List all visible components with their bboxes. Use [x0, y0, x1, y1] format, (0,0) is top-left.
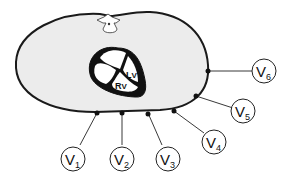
rv-label: RV: [115, 81, 128, 91]
lead-v1: V1: [61, 147, 85, 171]
electrode-v4: [172, 109, 177, 114]
lead-v6: V6: [252, 59, 276, 83]
lead-v5: V5: [231, 99, 255, 123]
lead-diagram: LV RV V1 V2 V3 V4 V5 V6: [0, 0, 291, 182]
electrode-v5: [194, 94, 199, 99]
lead-v3: V3: [156, 147, 180, 171]
electrode-v3: [146, 112, 151, 117]
electrode-v2: [120, 111, 125, 116]
lead-v4: V4: [202, 130, 226, 154]
electrode-v1: [95, 111, 100, 116]
lead-v2: V2: [110, 147, 134, 171]
lv-label: LV: [126, 70, 138, 80]
electrode-v6: [206, 69, 211, 74]
